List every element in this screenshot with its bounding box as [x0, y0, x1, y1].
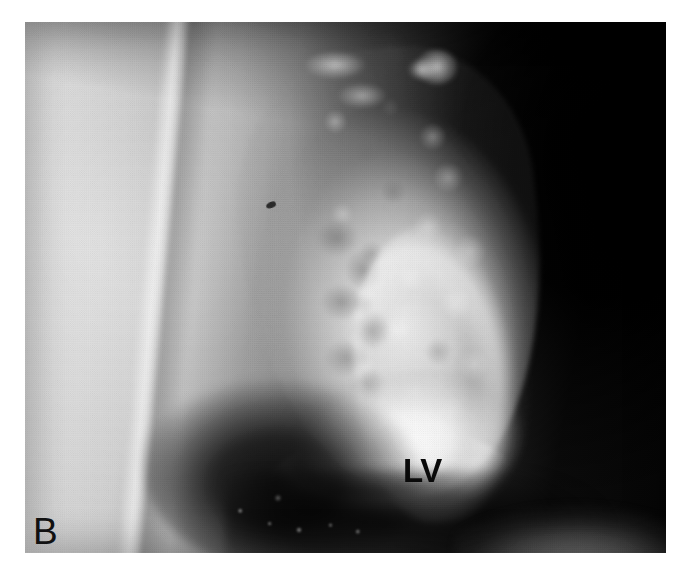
figure-root: LV B: [0, 0, 683, 570]
lv-annotation-label: LV: [403, 454, 442, 487]
lower-right-tissue: [455, 492, 666, 553]
panel-letter-label: B: [33, 513, 58, 550]
apical-calcific-speckles: [215, 474, 425, 553]
ventriculogram-image: LV: [25, 22, 666, 553]
